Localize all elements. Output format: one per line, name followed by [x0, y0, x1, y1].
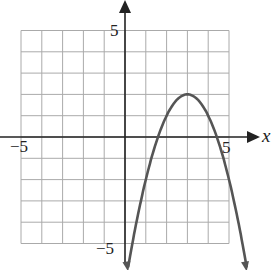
curve-arrow-left-icon — [122, 261, 130, 270]
x-tick-5: 5 — [222, 138, 231, 157]
x-axis-label: x — [261, 125, 271, 146]
axes — [0, 0, 260, 263]
graph: 5 −5 −5 5 x — [0, 0, 274, 270]
y-axis-arrow-icon — [119, 0, 131, 13]
y-tick-neg5: −5 — [96, 239, 114, 258]
x-tick-neg5: −5 — [10, 137, 28, 156]
y-tick-5: 5 — [110, 21, 119, 40]
x-axis-arrow-icon — [247, 131, 260, 143]
curve-arrow-right-icon — [241, 261, 249, 270]
